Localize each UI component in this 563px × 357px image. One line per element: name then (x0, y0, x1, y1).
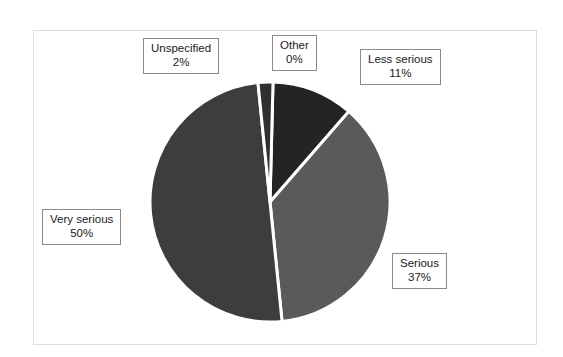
callout-less-serious-category: Less serious (368, 53, 433, 67)
callout-serious-percent: 37% (400, 271, 439, 285)
callout-very-serious-category: Very serious (50, 213, 113, 227)
pie-chart-figure: Unspecified 2% Other 0% Less serious 11%… (0, 0, 563, 357)
callout-other-category: Other (280, 39, 309, 53)
callout-other-percent: 0% (280, 53, 309, 67)
callout-very-serious-percent: 50% (50, 227, 113, 241)
callout-less-serious-percent: 11% (368, 67, 433, 81)
callout-other: Other 0% (272, 35, 317, 71)
callout-unspecified-category: Unspecified (151, 42, 211, 56)
callout-less-serious: Less serious 11% (360, 49, 441, 85)
callout-very-serious: Very serious 50% (42, 209, 121, 245)
callout-serious: Serious 37% (392, 253, 447, 289)
callout-unspecified: Unspecified 2% (143, 38, 219, 74)
callout-unspecified-percent: 2% (151, 56, 211, 70)
pie-slice-group (150, 82, 390, 322)
callout-serious-category: Serious (400, 257, 439, 271)
